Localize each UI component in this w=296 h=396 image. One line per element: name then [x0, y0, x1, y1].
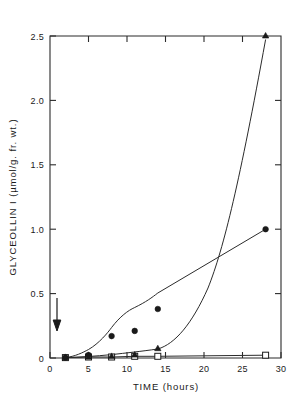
y-tick-label-0: 0	[39, 354, 44, 364]
y-tick-label-2-5: 2.5	[31, 32, 44, 42]
x-tick-label-15: 15	[160, 364, 171, 374]
x-tick-label-5: 5	[86, 364, 91, 374]
data-point-marker	[263, 352, 269, 358]
y-tick-label-1-0: 1.0	[31, 225, 44, 235]
glyceollin-accumulation-chart: 0 0.5 1.0 1.5 2.0 2.5 0 5 10 15 20 25 30…	[0, 0, 296, 396]
data-point-marker	[132, 328, 138, 334]
data-point-marker	[262, 33, 268, 39]
data-point-marker	[155, 353, 161, 359]
x-tick-label-20: 20	[199, 364, 210, 374]
top-spine-ticks	[89, 36, 243, 42]
x-tick-label-0: 0	[47, 364, 52, 374]
elicitor-addition-arrow	[53, 298, 61, 331]
triangle-series-markers	[62, 33, 269, 360]
y-axis-title: GLYCEOLLIN I (µmol/g. fr. wt.)	[7, 119, 18, 276]
y-tick-label-2-0: 2.0	[31, 96, 44, 106]
right-spine-ticks	[275, 100, 281, 293]
data-point-marker	[263, 226, 269, 232]
triangle-series-curve	[65, 40, 265, 358]
x-tick-label-10: 10	[122, 364, 133, 374]
data-point-marker	[109, 333, 115, 339]
x-tick-label-25: 25	[237, 364, 248, 374]
x-tick-label-30: 30	[276, 364, 287, 374]
circle-series-markers	[63, 226, 269, 360]
figure-container: 0 0.5 1.0 1.5 2.0 2.5 0 5 10 15 20 25 30…	[0, 0, 296, 396]
y-tick-label-0-5: 0.5	[31, 289, 44, 299]
data-point-marker	[155, 306, 161, 312]
x-axis-title: TIME (hours)	[133, 381, 199, 392]
y-axis-ticks	[50, 36, 56, 358]
circle-series-curve	[65, 229, 265, 357]
plot-frame	[50, 36, 281, 358]
y-tick-label-1-5: 1.5	[31, 160, 44, 170]
